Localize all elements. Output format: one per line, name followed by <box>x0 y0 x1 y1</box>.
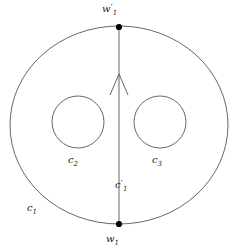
label-c3-base: c <box>152 154 158 165</box>
label-c2: c2 <box>68 155 78 165</box>
label-w1-prime-sub: 1 <box>113 9 117 17</box>
label-c1: c1 <box>27 203 37 213</box>
label-c1-prime: c′1 <box>115 180 127 190</box>
label-c3-sub: 3 <box>158 160 162 168</box>
top-vertex-dot <box>116 24 122 30</box>
label-c1-sub: 1 <box>33 208 37 216</box>
label-c1-base: c <box>27 202 33 213</box>
label-w1-prime-base: w <box>102 3 111 14</box>
label-w1-base: w <box>106 233 115 244</box>
left-hole-circle <box>52 96 104 148</box>
figure-canvas: w′1 w1 c′1 c1 c2 c3 <box>0 0 238 252</box>
label-w1-prime: w′1 <box>102 4 117 14</box>
label-w1: w1 <box>106 234 119 244</box>
bottom-vertex-dot <box>116 221 122 227</box>
label-w1-sub: 1 <box>115 239 119 247</box>
label-c2-sub: 2 <box>74 160 78 168</box>
label-c1-prime-base: c <box>115 179 121 190</box>
label-c1-prime-sub: 1 <box>123 185 127 193</box>
label-c2-base: c <box>68 154 74 165</box>
right-hole-circle <box>134 96 186 148</box>
label-c3: c3 <box>152 155 162 165</box>
